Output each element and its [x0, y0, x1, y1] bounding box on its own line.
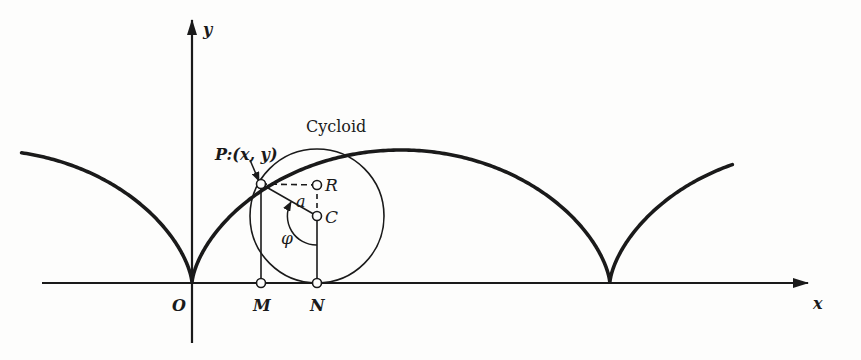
- point-R-label: R: [324, 175, 338, 195]
- cycloid-curve: [22, 150, 733, 283]
- radius-label-a: a: [296, 192, 306, 211]
- point-M-marker: [257, 279, 266, 288]
- point-C-label: C: [325, 207, 338, 227]
- point-R-marker: [313, 181, 322, 190]
- point-M-label: M: [252, 296, 272, 315]
- point-N-marker: [313, 279, 322, 288]
- x-axis-label: x: [812, 294, 823, 313]
- angle-label-phi: φ: [281, 228, 293, 248]
- cycloid-diagram: Cycloid y x O P:(x, y) R C M N a φ: [0, 0, 861, 360]
- radius-P-C: [261, 184, 317, 216]
- origin-label: O: [172, 296, 186, 315]
- point-C-marker: [313, 212, 322, 221]
- point-P-label: P:(x, y): [214, 145, 277, 164]
- y-axis-label: y: [202, 20, 214, 39]
- point-P-marker: [257, 180, 266, 189]
- diagram-title: Cycloid: [306, 117, 366, 136]
- point-N-label: N: [309, 296, 326, 315]
